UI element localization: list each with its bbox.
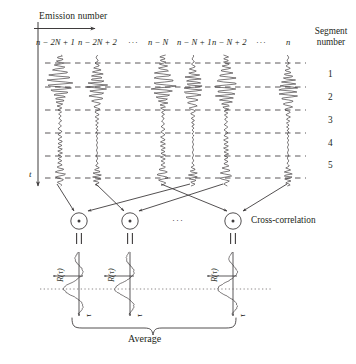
correlation-trace [63,252,83,314]
correlation-nodes [71,213,241,229]
emission-waveform [47,55,73,186]
segment-gridlines [45,63,306,178]
emission-column-label-5: n − N + 2 [212,38,247,47]
correlation-trace [217,252,237,314]
equals-signs [77,233,236,244]
result-plot [53,252,83,316]
emission-waveform [215,55,237,186]
result-plot [104,252,134,316]
emission-column-label-2: n − 2N + 2 [78,38,117,47]
diagram-canvas [0,0,356,364]
correlation-node [225,213,241,229]
result-plot-x-label-1: τ [85,314,93,317]
correlation-node-ellipsis: ··· [172,216,184,225]
correlation-node [71,213,87,229]
segment-number-1: 1 [328,70,333,79]
emission-column-ellipsis-2: ··· [256,38,266,47]
result-plots [53,252,238,316]
correlation-trace [114,252,134,314]
emission-waveform [151,55,176,186]
result-plot [207,252,238,316]
result-plot-x-label-3: τ [239,314,247,317]
correlation-node [122,213,138,229]
result-plot-y-label-1: R(τ) [57,268,65,282]
figure-root: Emission number n − 2N + 1 n − 2N + 2 ··… [0,0,356,364]
segment-number-5: 5 [328,161,333,170]
cross-correlation-label: Cross-correlation [251,216,316,225]
correlation-arrows [57,184,287,211]
emission-column-label-4: n − N + 1 [177,38,212,47]
segment-number-header: Segment number [305,26,356,47]
emission-waveform [86,55,107,186]
segment-number-3: 3 [328,116,333,125]
emission-column-label-3: n − N [148,38,168,47]
emission-column-ellipsis-1: ··· [128,38,138,47]
result-plot-y-label-3: R(τ) [211,268,219,282]
time-axis-label: t [29,170,32,179]
emission-waveforms [47,55,298,186]
emission-number-label: Emission number [39,12,107,22]
emission-axis [34,22,95,34]
result-plot-x-label-2: τ [136,314,144,317]
emission-column-label-1: n − 2N + 1 [36,38,75,47]
emission-waveform [279,55,298,186]
result-plot-y-label-2: R(τ) [108,268,116,282]
segment-number-2: 2 [328,93,333,102]
segment-number-4: 4 [328,139,333,148]
emission-waveform [184,55,202,186]
emission-column-label-6: n [286,38,290,47]
average-label: Average [128,334,161,344]
